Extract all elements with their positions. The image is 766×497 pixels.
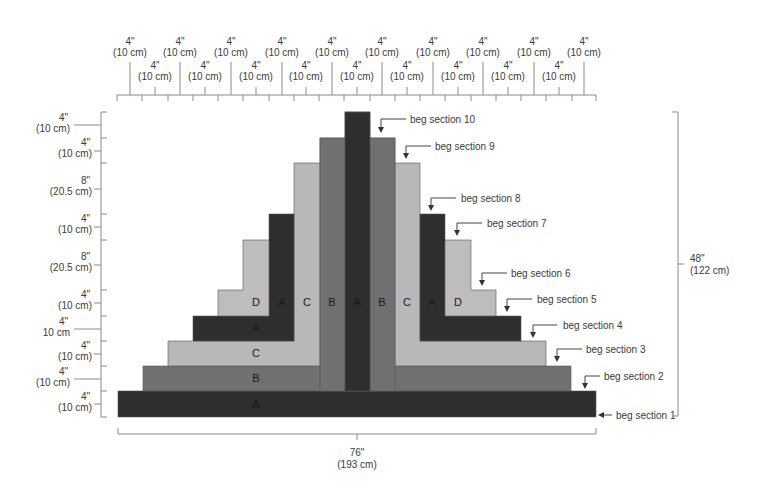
arrowhead-icon [554, 356, 560, 362]
svg-text:(10 cm): (10 cm) [36, 123, 70, 134]
svg-text:(10 cm): (10 cm) [58, 402, 92, 413]
top-ruler-lower-labels: 4" (10 cm) 4" (10 cm) 4" (10 cm) 4" (10 … [138, 60, 576, 82]
arrowhead-icon [504, 306, 510, 312]
block-center-a-top [345, 112, 370, 391]
svg-text:4": 4" [402, 60, 412, 71]
svg-text:C: C [303, 296, 311, 308]
svg-text:4": 4" [251, 60, 261, 71]
svg-text:A: A [252, 398, 260, 410]
block-d-shape-left [218, 240, 269, 316]
svg-text:(10 cm): (10 cm) [466, 47, 500, 58]
left-ruler-minor-ticks [101, 112, 107, 417]
callout-section-3: beg section 3 [586, 344, 646, 355]
svg-text:4": 4" [554, 60, 564, 71]
callout-section-5: beg section 5 [537, 294, 597, 305]
svg-text:D: D [252, 296, 260, 308]
svg-text:4": 4" [377, 36, 387, 47]
svg-text:4": 4" [277, 36, 287, 47]
svg-text:(10 cm): (10 cm) [113, 47, 147, 58]
svg-text:4": 4" [59, 366, 69, 377]
svg-text:4": 4" [200, 60, 210, 71]
svg-text:(20.5 cm): (20.5 cm) [50, 186, 92, 197]
svg-text:C: C [403, 296, 411, 308]
svg-text:4": 4" [81, 340, 91, 351]
svg-text:4": 4" [59, 112, 69, 123]
svg-text:4": 4" [453, 60, 463, 71]
svg-text:4": 4" [81, 391, 91, 402]
callout-section-1: beg section 1 [616, 410, 676, 421]
arrowhead-icon [530, 332, 536, 338]
svg-text:A: A [353, 296, 361, 308]
svg-text:4": 4" [301, 60, 311, 71]
width-dimension [118, 428, 596, 440]
svg-text:(10 cm): (10 cm) [441, 71, 475, 82]
width-cm: (193 cm) [337, 459, 376, 470]
svg-text:(10 cm): (10 cm) [517, 47, 551, 58]
svg-text:(10 cm): (10 cm) [188, 71, 222, 82]
top-ruler-mid-ticks [155, 87, 559, 95]
svg-text:B: B [328, 296, 335, 308]
svg-text:4": 4" [352, 60, 362, 71]
svg-text:4": 4" [81, 213, 91, 224]
arrowhead-icon [378, 127, 384, 133]
svg-text:8": 8" [81, 251, 91, 262]
callout-section-4: beg section 4 [563, 320, 623, 331]
blanket-blocks [118, 112, 596, 417]
svg-text:(10 cm): (10 cm) [58, 224, 92, 235]
top-ruler-upper-labels: 4" (10 cm) 4" (10 cm) 4" (10 cm) 4" (10 … [113, 36, 601, 58]
svg-text:(10 cm): (10 cm) [138, 71, 172, 82]
width-inches: 76" [350, 447, 365, 458]
svg-text:A: A [278, 296, 286, 308]
arrowhead-icon [454, 230, 460, 236]
callout-section-8: beg section 8 [461, 193, 521, 204]
svg-text:A: A [428, 296, 436, 308]
block-b-right-col [370, 138, 395, 391]
svg-text:A: A [252, 322, 260, 334]
svg-text:4": 4" [150, 60, 160, 71]
svg-text:4": 4" [428, 36, 438, 47]
block-d-shape-right [445, 240, 496, 316]
svg-text:4": 4" [125, 36, 135, 47]
arrowhead-icon [479, 280, 485, 286]
svg-text:(10 cm): (10 cm) [58, 148, 92, 159]
svg-text:4": 4" [81, 137, 91, 148]
callout-section-9: beg section 9 [435, 141, 495, 152]
height-dimension [672, 112, 684, 416]
callout-section-6: beg section 6 [511, 268, 571, 279]
callout-section-2: beg section 2 [604, 371, 664, 382]
svg-text:D: D [454, 296, 462, 308]
blanket-schematic: 4" (10 cm) 4" (10 cm) 4" (10 cm) 4" (10 … [0, 0, 766, 497]
svg-text:(10 cm): (10 cm) [58, 300, 92, 311]
svg-text:(10 cm): (10 cm) [390, 71, 424, 82]
svg-text:(10 cm): (10 cm) [491, 71, 525, 82]
arrowhead-icon [428, 205, 434, 211]
svg-text:4": 4" [226, 36, 236, 47]
svg-text:(10 cm): (10 cm) [289, 71, 323, 82]
svg-text:(20.5 cm): (20.5 cm) [50, 262, 92, 273]
svg-text:(10 cm): (10 cm) [239, 71, 273, 82]
svg-text:8": 8" [81, 175, 91, 186]
svg-text:(10 cm): (10 cm) [265, 47, 299, 58]
block-row1-a [118, 391, 596, 417]
svg-text:4": 4" [529, 36, 539, 47]
arrowhead-icon [598, 412, 604, 418]
svg-text:C: C [252, 347, 260, 359]
svg-text:4": 4" [503, 60, 513, 71]
svg-text:10 cm: 10 cm [43, 327, 70, 338]
svg-text:(10 cm): (10 cm) [416, 47, 450, 58]
block-b-left-col [320, 138, 345, 391]
svg-text:B: B [252, 372, 259, 384]
height-cm: (122 cm) [690, 265, 729, 276]
svg-text:4": 4" [81, 289, 91, 300]
svg-text:(10 cm): (10 cm) [214, 47, 248, 58]
callout-section-7: beg section 7 [487, 218, 547, 229]
svg-text:(10 cm): (10 cm) [365, 47, 399, 58]
arrowhead-icon [403, 153, 409, 159]
height-inches: 48" [690, 253, 705, 264]
svg-text:(10 cm): (10 cm) [315, 47, 349, 58]
svg-text:B: B [378, 296, 385, 308]
svg-text:(10 cm): (10 cm) [542, 71, 576, 82]
svg-text:4": 4" [59, 316, 69, 327]
svg-text:(10 cm): (10 cm) [163, 47, 197, 58]
svg-text:4": 4" [579, 36, 589, 47]
